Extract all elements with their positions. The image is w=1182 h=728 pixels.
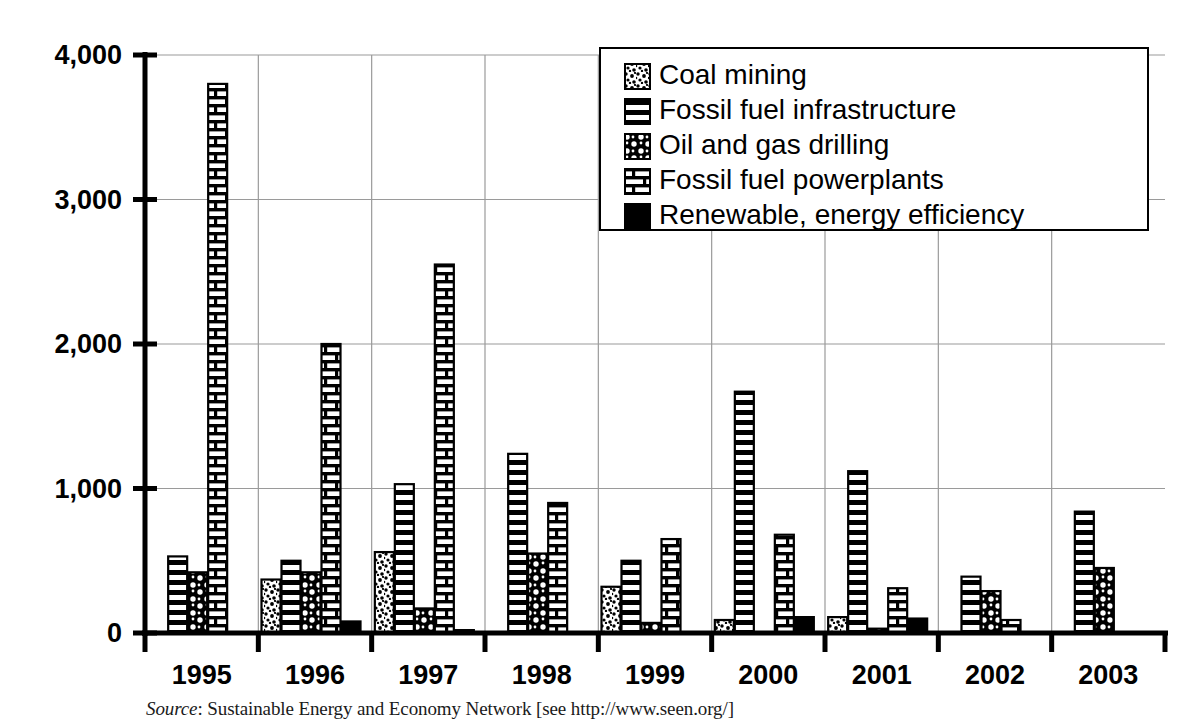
bar-1999-fossil-fuel-infrastructure xyxy=(622,561,641,633)
bar-2002-fossil-fuel-infrastructure xyxy=(962,577,981,633)
y-axis-tick-label: 1,000 xyxy=(54,474,122,504)
source-note: Source: Sustainable Energy and Economy N… xyxy=(146,698,734,720)
bar-2000-fossil-fuel-infrastructure xyxy=(735,392,754,633)
bar-1995-oil-and-gas-drilling xyxy=(188,572,207,633)
legend-label-oil-and-gas-drilling: Oil and gas drilling xyxy=(659,129,889,160)
legend-swatch-oil-and-gas-drilling xyxy=(625,134,650,159)
legend-swatch-fossil-fuel-infrastructure xyxy=(625,99,650,124)
bar-1999-coal-mining xyxy=(602,587,621,633)
legend-swatch-renewable-energy-efficiency xyxy=(625,204,650,229)
x-axis-tick-label-1995: 1995 xyxy=(172,660,232,690)
source-label: Source xyxy=(146,698,197,719)
bar-2000-fossil-fuel-powerplants xyxy=(775,535,794,633)
bar-1997-coal-mining xyxy=(375,552,394,633)
legend-label-fossil-fuel-powerplants: Fossil fuel powerplants xyxy=(659,164,944,195)
x-axis-tick-label-2001: 2001 xyxy=(852,660,912,690)
legend-label-fossil-fuel-infrastructure: Fossil fuel infrastructure xyxy=(659,94,956,125)
bar-1995-fossil-fuel-powerplants xyxy=(208,84,227,633)
x-axis-tick-label-2002: 2002 xyxy=(965,660,1025,690)
x-axis-tick-label-1996: 1996 xyxy=(285,660,345,690)
bar-1996-coal-mining xyxy=(262,580,281,633)
legend-swatch-fossil-fuel-powerplants xyxy=(625,169,650,194)
x-axis-tick-label-1998: 1998 xyxy=(512,660,572,690)
y-axis-tick-label: 3,000 xyxy=(54,185,122,215)
bar-1996-fossil-fuel-infrastructure xyxy=(282,561,301,633)
legend-label-renewable-energy-efficiency: Renewable, energy efficiency xyxy=(659,199,1024,230)
x-axis-tick-label-1997: 1997 xyxy=(398,660,458,690)
bar-1996-fossil-fuel-powerplants xyxy=(322,344,341,633)
legend-swatch-coal-mining xyxy=(625,64,650,89)
legend-label-coal-mining: Coal mining xyxy=(659,59,807,90)
bar-1996-oil-and-gas-drilling xyxy=(302,572,321,633)
bar-1997-fossil-fuel-infrastructure xyxy=(395,484,414,633)
y-axis-tick-label: 2,000 xyxy=(54,329,122,359)
bar-1995-fossil-fuel-infrastructure xyxy=(168,556,187,633)
bar-1997-fossil-fuel-powerplants xyxy=(435,265,454,633)
x-axis-tick-label-1999: 1999 xyxy=(625,660,685,690)
bar-2003-oil-and-gas-drilling xyxy=(1095,568,1114,633)
y-axis-tick-label: 0 xyxy=(107,618,122,648)
x-axis-tick-label-2000: 2000 xyxy=(738,660,798,690)
bar-1998-fossil-fuel-infrastructure xyxy=(508,454,527,633)
bar-1998-oil-and-gas-drilling xyxy=(528,554,547,633)
bar-1999-fossil-fuel-powerplants xyxy=(662,539,681,633)
chart-legend: Coal miningFossil fuel infrastructureOil… xyxy=(600,48,1148,230)
bar-2003-fossil-fuel-infrastructure xyxy=(1075,512,1094,633)
source-separator: : xyxy=(197,698,207,719)
bar-2002-oil-and-gas-drilling xyxy=(982,591,1001,633)
y-axis-tick-group: 01,0002,0003,0004,000 xyxy=(54,40,157,648)
bar-chart-figure: 01,0002,0003,0004,000 199519961997199819… xyxy=(0,0,1182,728)
y-axis-tick-label: 4,000 xyxy=(54,40,122,70)
x-axis-tick-label-2003: 2003 xyxy=(1078,660,1138,690)
bar-1998-fossil-fuel-powerplants xyxy=(548,503,567,633)
bar-1997-oil-and-gas-drilling xyxy=(415,608,434,633)
source-text: Sustainable Energy and Economy Network [… xyxy=(207,698,734,719)
bar-2001-fossil-fuel-powerplants xyxy=(888,588,907,633)
bar-2001-fossil-fuel-infrastructure xyxy=(848,471,867,633)
x-axis-tick-group: 199519961997199819992000200120022003 xyxy=(145,633,1165,690)
